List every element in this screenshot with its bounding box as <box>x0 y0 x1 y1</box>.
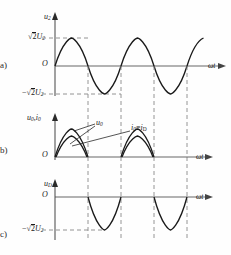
panel-a-y-arrow <box>52 12 58 20</box>
panel-a-origin-label: O <box>42 60 48 68</box>
panel-c-origin-label: O <box>42 191 48 199</box>
panel-b-i0-hump-1 <box>56 136 87 157</box>
panel-a-graphics <box>42 12 226 96</box>
panel-b-annotation-u0: u0 <box>96 119 103 127</box>
panel-letter-b: b) <box>0 145 8 155</box>
panel-b-y-axis-label: u0,i0 <box>27 114 41 122</box>
panel-c-x-arrow <box>205 194 213 200</box>
panel-a-y-axis-label: u2 <box>44 13 51 21</box>
panel-c-x-axis-label: ωt <box>196 193 203 201</box>
panel-c-ud-hump-2 <box>154 197 187 230</box>
panel-b-u0-hump-2 <box>121 129 154 157</box>
panel-c-y-axis-label: uD <box>44 180 52 188</box>
panel-b-x-axis-label: ωt <box>196 153 203 161</box>
panel-a-x-axis-label: ωt <box>208 62 215 70</box>
panel-b-y-arrow <box>52 113 58 121</box>
vertical-dashed-guides <box>88 66 187 238</box>
panel-a-negpeak-label: −√2U2 <box>22 88 43 97</box>
waveform-figure: a) b) c) u2 √2U2 O −√2U2 ωt u0,i0 u0 i0=… <box>0 0 231 255</box>
panel-c-negpeak-label: −√2U2 <box>22 224 43 233</box>
panel-letter-a: a) <box>0 60 7 70</box>
panel-b-graphics <box>52 113 213 160</box>
panel-c-y-arrow <box>52 179 58 187</box>
panel-c-ud-hump-1 <box>88 197 121 230</box>
panel-b-leader-u0-a <box>74 124 95 131</box>
panel-b-origin-label: O <box>42 151 48 159</box>
panel-a-x-arrow <box>218 63 226 69</box>
panel-letter-c: c) <box>0 229 7 239</box>
panel-b-x-arrow <box>205 154 213 160</box>
panel-b-annotation-i0-id: i0=iD <box>131 124 147 132</box>
panel-a-peak-label: √2U2 <box>28 32 45 41</box>
panel-a-sine-tail <box>187 38 204 66</box>
panel-b-i0-hump-2 <box>122 136 153 157</box>
